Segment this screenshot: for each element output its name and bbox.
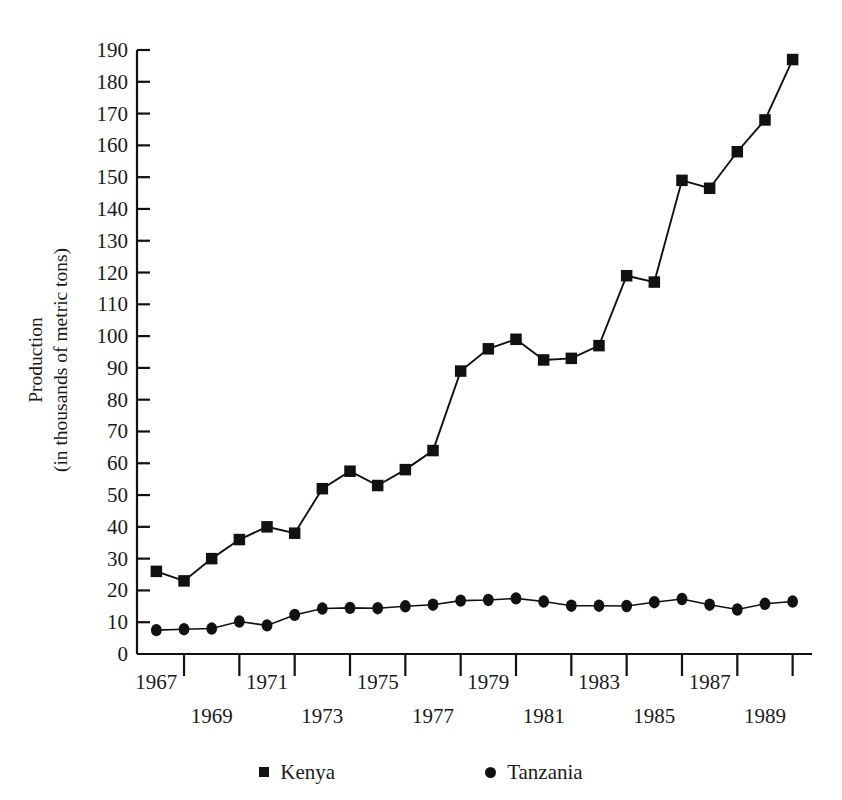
- y-axis-tick-label: 70: [62, 421, 128, 442]
- square-marker-icon: [483, 343, 495, 355]
- square-marker-icon: [259, 767, 269, 777]
- circle-marker-icon: [151, 624, 162, 636]
- circle-marker-icon: [566, 599, 577, 611]
- chart-figure: Production (in thousands of metric tons)…: [0, 0, 842, 800]
- square-marker-icon: [649, 276, 661, 288]
- y-axis-tick-label: 60: [62, 453, 128, 474]
- circle-marker-icon: [372, 602, 383, 614]
- legend-label-kenya: Kenya: [280, 762, 335, 783]
- circle-marker-icon: [345, 602, 356, 614]
- x-axis-tick-label: 1967: [121, 672, 191, 693]
- square-marker-icon: [234, 534, 246, 546]
- y-axis-tick-label: 90: [62, 358, 128, 379]
- square-marker-icon: [400, 464, 412, 476]
- square-marker-icon: [621, 270, 633, 282]
- y-axis-tick-label: 150: [62, 167, 128, 188]
- y-axis-tick-label: 120: [62, 263, 128, 284]
- legend-item-tanzania[interactable]: Tanzania: [485, 762, 582, 783]
- square-marker-icon: [787, 54, 799, 66]
- square-marker-icon: [593, 340, 605, 352]
- square-marker-icon: [178, 575, 190, 587]
- circle-marker-icon: [262, 619, 273, 631]
- legend-item-kenya[interactable]: Kenya: [259, 762, 335, 783]
- circle-marker-icon: [455, 594, 466, 606]
- circle-marker-icon: [621, 600, 632, 612]
- y-axis-tick-label: 10: [62, 612, 128, 633]
- x-axis-tick-label: 1979: [453, 672, 523, 693]
- circle-marker-icon: [485, 767, 496, 778]
- circle-marker-icon: [234, 615, 245, 627]
- x-axis-tick-label: 1985: [619, 706, 689, 727]
- y-axis-tick-label: 140: [62, 199, 128, 220]
- circle-marker-icon: [483, 594, 494, 606]
- y-axis-tick-marks: [137, 50, 150, 622]
- series-tanzania: [151, 592, 798, 636]
- square-marker-icon: [261, 521, 273, 533]
- circle-marker-icon: [594, 599, 605, 611]
- square-marker-icon: [455, 365, 467, 377]
- y-axis-tick-label: 160: [62, 135, 128, 156]
- axis-lines: [137, 50, 812, 654]
- circle-marker-icon: [760, 598, 771, 610]
- series-kenya: [151, 54, 799, 587]
- x-axis-tick-label: 1977: [398, 706, 468, 727]
- y-axis-tick-label: 100: [62, 326, 128, 347]
- y-axis-tick-label: 130: [62, 231, 128, 252]
- circle-marker-icon: [317, 602, 328, 614]
- circle-marker-icon: [538, 595, 549, 607]
- circle-marker-icon: [787, 595, 798, 607]
- circle-marker-icon: [428, 599, 439, 611]
- x-axis-tick-label: 1971: [232, 672, 302, 693]
- x-axis-tick-label: 1975: [343, 672, 413, 693]
- square-marker-icon: [206, 553, 218, 565]
- y-axis-tick-label: 40: [62, 517, 128, 538]
- circle-marker-icon: [206, 622, 217, 634]
- data-series-layer: [151, 54, 799, 637]
- y-axis-tick-label: 50: [62, 485, 128, 506]
- series-line: [156, 60, 792, 581]
- y-axis-tick-label: 190: [62, 40, 128, 61]
- circle-marker-icon: [511, 592, 522, 604]
- y-axis-tick-label: 180: [62, 72, 128, 93]
- circle-marker-icon: [179, 623, 190, 635]
- x-axis-tick-label: 1983: [564, 672, 634, 693]
- square-marker-icon: [151, 566, 163, 578]
- y-axis-tick-label: 20: [62, 580, 128, 601]
- series-line: [156, 598, 792, 630]
- square-marker-icon: [427, 445, 439, 457]
- y-axis-tick-label: 30: [62, 549, 128, 570]
- circle-marker-icon: [289, 609, 300, 621]
- x-axis-tick-label: 1987: [675, 672, 745, 693]
- square-marker-icon: [372, 480, 384, 492]
- y-axis-tick-label: 0: [62, 644, 128, 665]
- square-marker-icon: [732, 146, 744, 158]
- y-axis-tick-label: 110: [62, 294, 128, 315]
- x-axis-tick-label: 1973: [287, 706, 357, 727]
- square-marker-icon: [538, 354, 550, 366]
- square-marker-icon: [317, 483, 329, 495]
- square-marker-icon: [704, 183, 716, 195]
- circle-marker-icon: [732, 603, 743, 615]
- legend-label-tanzania: Tanzania: [507, 762, 582, 783]
- y-axis-tick-label: 170: [62, 104, 128, 125]
- square-marker-icon: [566, 353, 578, 365]
- square-marker-icon: [344, 465, 356, 477]
- chart-legend: Kenya Tanzania: [0, 752, 842, 792]
- x-axis-tick-label: 1989: [730, 706, 800, 727]
- square-marker-icon: [510, 334, 522, 346]
- x-axis-tick-label: 1969: [177, 706, 247, 727]
- x-axis-tick-label: 1981: [509, 706, 579, 727]
- circle-marker-icon: [400, 600, 411, 612]
- square-marker-icon: [289, 527, 301, 539]
- square-marker-icon: [676, 175, 688, 187]
- square-marker-icon: [759, 114, 771, 126]
- y-axis-tick-label: 80: [62, 390, 128, 411]
- circle-marker-icon: [704, 599, 715, 611]
- circle-marker-icon: [649, 596, 660, 608]
- circle-marker-icon: [677, 593, 688, 605]
